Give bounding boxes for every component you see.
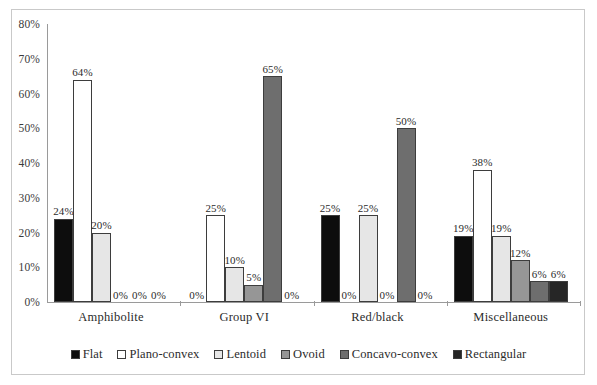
category-label: Amphibolite	[78, 310, 143, 325]
bar-slot: 5%	[244, 24, 263, 302]
y-tick-label: 80%	[19, 18, 40, 30]
bar-value-label: 25%	[358, 202, 378, 214]
bar-value-label: 12%	[510, 247, 530, 259]
bar-value-label: 0%	[342, 289, 357, 301]
bar-slot: 20%	[92, 24, 111, 302]
bar-slot: 0%	[130, 24, 149, 302]
bar-slot: 12%	[511, 24, 530, 302]
bar[interactable]	[321, 215, 340, 302]
bar-value-label: 5%	[246, 271, 261, 283]
bar-slot: 0%	[340, 24, 359, 302]
bar[interactable]	[473, 170, 492, 302]
y-tick-label: 60%	[19, 88, 40, 100]
bar-value-label: 65%	[263, 63, 283, 75]
bar-value-label: 19%	[453, 222, 473, 234]
bar-value-label: 0%	[113, 289, 128, 301]
legend-label: Flat	[83, 347, 103, 362]
bar-value-label: 38%	[472, 156, 492, 168]
y-tick-label: 70%	[19, 53, 40, 65]
legend-label: Lentoid	[226, 347, 266, 362]
bar-slot: 25%	[359, 24, 378, 302]
bar[interactable]	[530, 281, 549, 302]
bar-value-label: 0%	[189, 289, 204, 301]
bar[interactable]	[359, 215, 378, 302]
legend-swatch-icon	[117, 350, 126, 359]
bar[interactable]	[454, 236, 473, 302]
y-tick-label: 40%	[19, 157, 40, 169]
legend-swatch-icon	[214, 350, 223, 359]
bar[interactable]	[492, 236, 511, 302]
bar[interactable]	[92, 233, 111, 303]
y-tick-label: 10%	[19, 261, 40, 273]
legend-label: Ovoid	[293, 347, 325, 362]
bar[interactable]	[54, 219, 73, 302]
bar-slot: 0%	[282, 24, 301, 302]
bar-value-label: 19%	[491, 222, 511, 234]
bar-group: 25%0%25%0%50%0%	[321, 24, 435, 302]
bar-slot: 25%	[321, 24, 340, 302]
legend-swatch-icon	[340, 350, 349, 359]
bar-value-label: 0%	[132, 289, 147, 301]
bar-value-label: 10%	[225, 254, 245, 266]
bar-value-label: 6%	[551, 268, 566, 280]
plot-area: 0%10%20%30%40%50%60%70%80% 24%64%20%0%0%…	[47, 24, 580, 302]
legend-item[interactable]: Concavo-convex	[340, 347, 438, 362]
bar-value-label: 24%	[53, 205, 73, 217]
category-separator-tick	[447, 301, 448, 306]
category-label: Group VI	[219, 310, 269, 325]
legend-item[interactable]: Plano-convex	[117, 347, 199, 362]
bar-value-label: 0%	[284, 289, 299, 301]
bar[interactable]	[397, 128, 416, 302]
bar[interactable]	[225, 267, 244, 302]
y-tick-label: 20%	[19, 227, 40, 239]
bar-slot: 25%	[206, 24, 225, 302]
bar-group: 24%64%20%0%0%0%	[54, 24, 168, 302]
bar-slot: 65%	[263, 24, 282, 302]
bar-slot: 6%	[549, 24, 568, 302]
bar-value-label: 25%	[320, 202, 340, 214]
bar[interactable]	[263, 76, 282, 302]
bar-slot: 38%	[473, 24, 492, 302]
bar-slot: 24%	[54, 24, 73, 302]
legend-label: Rectangular	[465, 347, 527, 362]
bar-slot: 0%	[111, 24, 130, 302]
bar-slot: 0%	[187, 24, 206, 302]
bar-value-label: 0%	[151, 289, 166, 301]
bar-slot: 0%	[149, 24, 168, 302]
bar-slot: 64%	[73, 24, 92, 302]
bar-value-label: 50%	[396, 115, 416, 127]
bar-group: 0%25%10%5%65%0%	[187, 24, 301, 302]
legend-item[interactable]: Ovoid	[281, 347, 325, 362]
category-label: Red/black	[351, 310, 403, 325]
bar-slot: 19%	[454, 24, 473, 302]
bar-value-label: 6%	[532, 268, 547, 280]
bar-slot: 6%	[530, 24, 549, 302]
bar[interactable]	[549, 281, 568, 302]
category-separator-tick	[180, 301, 181, 306]
legend-swatch-icon	[281, 350, 290, 359]
y-tick-label: 30%	[19, 192, 40, 204]
legend-swatch-icon	[71, 350, 80, 359]
bar-value-label: 25%	[206, 202, 226, 214]
category-separator-tick	[314, 301, 315, 306]
bar-group: 19%38%19%12%6%6%	[454, 24, 568, 302]
bar-slot: 0%	[416, 24, 435, 302]
bar-value-label: 0%	[380, 289, 395, 301]
legend-item[interactable]: Lentoid	[214, 347, 266, 362]
bar-slot: 10%	[225, 24, 244, 302]
bar-value-label: 20%	[91, 219, 111, 231]
bar[interactable]	[244, 285, 263, 302]
chart-figure: 0%10%20%30%40%50%60%70%80% 24%64%20%0%0%…	[0, 0, 597, 385]
legend-swatch-icon	[453, 350, 462, 359]
category-separator-tick	[580, 301, 581, 306]
bar-value-label: 64%	[72, 66, 92, 78]
bar[interactable]	[73, 80, 92, 302]
legend-item[interactable]: Flat	[71, 347, 103, 362]
legend-label: Plano-convex	[129, 347, 199, 362]
bar[interactable]	[206, 215, 225, 302]
chart-legend: FlatPlano-convexLentoidOvoidConcavo-conv…	[0, 347, 597, 362]
legend-item[interactable]: Rectangular	[453, 347, 527, 362]
y-tick-label: 50%	[19, 122, 40, 134]
bar[interactable]	[511, 260, 530, 302]
legend-label: Concavo-convex	[352, 347, 438, 362]
